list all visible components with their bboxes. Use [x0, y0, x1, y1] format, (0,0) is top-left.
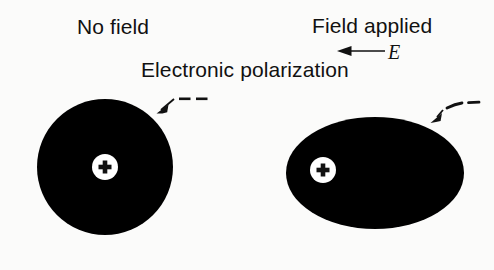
electron-annotation-no-field	[157, 98, 208, 114]
panel-label-no-field: No field	[77, 16, 149, 37]
minus-sign-icon	[179, 98, 191, 101]
panel-label-field-applied: Field applied	[312, 15, 432, 36]
electronic-polarization-diagram	[0, 0, 494, 270]
electron-annotation-field-applied	[431, 102, 480, 123]
atom-field-applied	[286, 117, 464, 229]
field-arrow-head-icon	[337, 46, 352, 56]
field-symbol-label: E	[388, 42, 400, 62]
minus-sign-icon	[196, 98, 208, 101]
field-direction-arrow	[337, 46, 385, 56]
diagram-title: Electronic polarization	[141, 59, 349, 80]
atom-no-field	[37, 99, 173, 235]
minus-sign-icon	[447, 103, 462, 108]
